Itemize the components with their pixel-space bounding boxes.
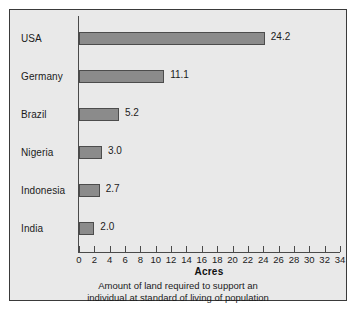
x-tick bbox=[340, 246, 341, 252]
y-axis-line bbox=[78, 16, 79, 252]
x-tick bbox=[156, 246, 157, 252]
bar-chart-plot-area: 24.211.15.23.02.72.0 USAGermanyBrazilNig… bbox=[10, 10, 346, 300]
chart-frame: 24.211.15.23.02.72.0 USAGermanyBrazilNig… bbox=[9, 9, 347, 301]
x-tick bbox=[140, 246, 141, 252]
caption-line-2: individual at standard of living of popu… bbox=[18, 292, 338, 304]
bar-usa bbox=[79, 32, 265, 45]
x-axis-line bbox=[78, 252, 340, 253]
x-tick bbox=[94, 246, 95, 252]
bar-brazil bbox=[79, 108, 119, 121]
category-label-usa: USA bbox=[21, 33, 42, 44]
bar-nigeria bbox=[79, 146, 102, 159]
chart-caption: Amount of land required to support an in… bbox=[18, 280, 338, 303]
x-tick bbox=[171, 246, 172, 252]
x-tick bbox=[294, 246, 295, 252]
bar-value-label: 2.7 bbox=[106, 183, 120, 194]
bar-value-label: 2.0 bbox=[100, 221, 114, 232]
x-tick bbox=[248, 246, 249, 252]
x-tick-label: 34 bbox=[330, 254, 350, 265]
x-tick bbox=[125, 246, 126, 252]
bar-value-label: 3.0 bbox=[108, 145, 122, 156]
bar-value-label: 5.2 bbox=[125, 107, 139, 118]
bar-value-label: 11.1 bbox=[170, 69, 189, 80]
bar-indonesia bbox=[79, 184, 100, 197]
category-label-brazil: Brazil bbox=[21, 109, 47, 120]
x-tick bbox=[79, 246, 80, 252]
x-tick bbox=[263, 246, 264, 252]
category-label-nigeria: Nigeria bbox=[21, 147, 53, 158]
x-tick bbox=[110, 246, 111, 252]
category-label-india: India bbox=[21, 223, 43, 234]
x-tick bbox=[186, 246, 187, 252]
category-label-indonesia: Indonesia bbox=[21, 185, 65, 196]
x-tick bbox=[325, 246, 326, 252]
x-tick bbox=[217, 246, 218, 252]
x-tick bbox=[309, 246, 310, 252]
x-tick bbox=[202, 246, 203, 252]
bar-india bbox=[79, 222, 94, 235]
x-tick bbox=[233, 246, 234, 252]
bar-germany bbox=[79, 70, 164, 83]
caption-line-1: Amount of land required to support an bbox=[18, 280, 338, 292]
bar-value-label: 24.2 bbox=[271, 31, 290, 42]
x-tick bbox=[279, 246, 280, 252]
x-axis-title: Acres bbox=[78, 266, 340, 277]
category-label-germany: Germany bbox=[21, 71, 63, 82]
